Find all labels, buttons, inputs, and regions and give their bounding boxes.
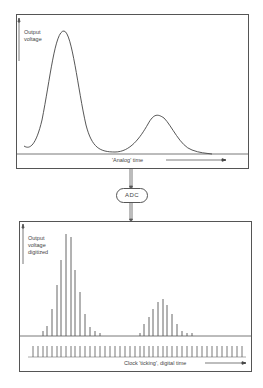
digital-time-arrow — [205, 362, 246, 364]
connector-top — [130, 169, 133, 189]
digitized-bars-group-2 — [140, 299, 192, 336]
clock-ticks — [28, 346, 246, 357]
diagram-graphics — [0, 0, 263, 388]
analog-y-axis — [18, 18, 20, 61]
connector-bottom — [130, 203, 133, 222]
analog-time-arrow — [166, 159, 226, 161]
digital-y-axis — [22, 224, 24, 264]
digitized-bars-group-1 — [43, 234, 100, 336]
analog-curve — [24, 31, 212, 154]
